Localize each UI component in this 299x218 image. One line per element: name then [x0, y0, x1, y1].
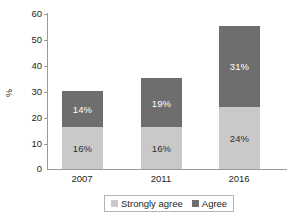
y-tick-label-40: 40 — [18, 61, 42, 71]
bar-segment-strongly-agree-2011[interactable]: 16% — [141, 127, 182, 169]
bar-segment-agree-2007[interactable]: 14% — [62, 91, 103, 127]
y-tick-label-50: 50 — [18, 35, 42, 45]
chart-legend: Strongly agree Agree — [104, 195, 234, 212]
x-axis-line — [47, 169, 287, 170]
legend-swatch-agree-icon — [192, 200, 199, 207]
bar-label-agree-2007: 14% — [62, 104, 103, 115]
plot-area: 14% 16% 19% 16% 31% 24% — [48, 13, 287, 169]
legend-label-agree: Agree — [202, 198, 227, 209]
bar-label-agree-2016: 31% — [219, 61, 260, 72]
bar-label-strongly-agree-2007: 16% — [62, 143, 103, 154]
bar-group-2007[interactable]: 14% 16% — [62, 91, 103, 169]
legend-label-strongly-agree: Strongly agree — [121, 198, 183, 209]
bar-label-strongly-agree-2016: 24% — [219, 132, 260, 143]
x-tick-label-2011: 2011 — [131, 173, 191, 184]
stacked-bar-chart: % 60 50 40 30 20 10 0 14% 16% 19% 16% — [0, 0, 299, 218]
bar-segment-strongly-agree-2016[interactable]: 24% — [219, 107, 260, 169]
legend-entry-strongly-agree[interactable]: Strongly agree — [111, 198, 183, 209]
bar-segment-agree-2011[interactable]: 19% — [141, 78, 182, 127]
bar-segment-strongly-agree-2007[interactable]: 16% — [62, 127, 103, 169]
x-tick-label-2016: 2016 — [209, 173, 269, 184]
legend-swatch-strongly-agree-icon — [111, 200, 118, 207]
bar-label-agree-2011: 19% — [141, 97, 182, 108]
y-tick-label-20: 20 — [18, 113, 42, 123]
y-tick-label-0: 0 — [18, 164, 42, 174]
y-tick-label-10: 10 — [18, 139, 42, 149]
y-tick-label-30: 30 — [18, 87, 42, 97]
bar-group-2016[interactable]: 31% 24% — [219, 26, 260, 169]
y-tick-label-60: 60 — [18, 9, 42, 19]
legend-entry-agree[interactable]: Agree — [192, 198, 227, 209]
x-tick-label-2007: 2007 — [52, 173, 112, 184]
bar-label-strongly-agree-2011: 16% — [141, 143, 182, 154]
bar-group-2011[interactable]: 19% 16% — [141, 78, 182, 169]
y-axis-title: % — [4, 85, 14, 101]
bar-segment-agree-2016[interactable]: 31% — [219, 26, 260, 107]
